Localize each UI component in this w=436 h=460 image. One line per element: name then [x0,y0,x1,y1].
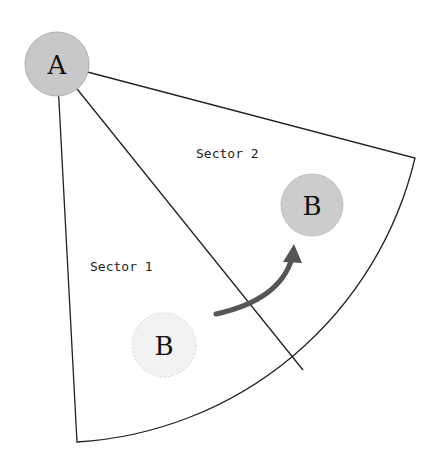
node-a: A [25,32,89,96]
move-arrow [216,244,302,314]
node-a-label: A [47,50,68,80]
sector-2-label: Sector 2 [196,146,259,161]
node-b-target-label: B [302,191,321,221]
node-b-origin-label: B [154,331,173,361]
node-b-origin: B [132,313,196,377]
sector-1-label: Sector 1 [90,259,153,274]
sector-outline [57,64,415,442]
node-b-target: B [281,174,343,236]
sector-diagram: Sector 2 Sector 1 A B B [0,0,436,460]
